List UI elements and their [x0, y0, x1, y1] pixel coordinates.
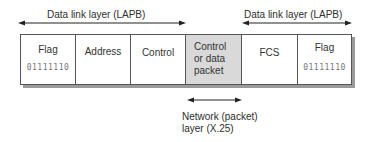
cell-label: Flag: [298, 42, 351, 53]
cell-label: FCS: [242, 47, 297, 58]
cell-address: Address: [75, 34, 130, 85]
cell-label-multiline: Control or data packet: [194, 41, 226, 77]
cell-bits: 01111110: [298, 63, 351, 72]
cell-flag-end: Flag 01111110: [297, 34, 352, 85]
cell-label-line: Control: [194, 41, 226, 53]
network-layer-label-line2: layer (X.25): [182, 123, 234, 134]
double-arrow-icon-network: [187, 96, 242, 104]
cell-flag-start: Flag 01111110: [20, 34, 75, 85]
lapb-frame: Flag 01111110 Address Control Control or…: [20, 34, 352, 85]
double-arrow-icon-left: [18, 19, 186, 27]
cell-fcs: FCS: [241, 34, 297, 85]
cell-control-or-data-packet: Control or data packet: [185, 34, 241, 85]
cell-label-line: packet: [194, 65, 226, 77]
cell-label: Flag: [21, 44, 75, 55]
cell-label: Address: [76, 46, 130, 57]
cell-label: Control: [131, 47, 185, 58]
cell-control: Control: [130, 34, 185, 85]
double-arrow-icon-right: [242, 19, 352, 27]
cell-bits: 01111110: [21, 63, 75, 72]
network-layer-label-line1: Network (packet): [182, 111, 258, 122]
cell-label-line: or data: [194, 53, 226, 65]
